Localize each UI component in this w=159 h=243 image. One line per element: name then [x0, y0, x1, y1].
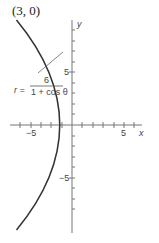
eq-numerator: 6 [44, 75, 49, 85]
y-axis-label: y [76, 19, 82, 29]
annotation-leader [38, 52, 63, 73]
y-tick-label-neg5: −5 [59, 173, 69, 183]
x-axis-label: x [138, 128, 144, 138]
eq-lhs: r = [14, 85, 25, 95]
x-tick-label-5: 5 [121, 128, 126, 138]
parabola-chart: r = 6 1 + cos θ y x −5 5 5 −5 [0, 0, 159, 243]
eq-denominator: 1 + cos θ [31, 87, 68, 97]
y-tick-label-5: 5 [64, 67, 69, 77]
x-tick-label-neg5: −5 [26, 128, 36, 138]
